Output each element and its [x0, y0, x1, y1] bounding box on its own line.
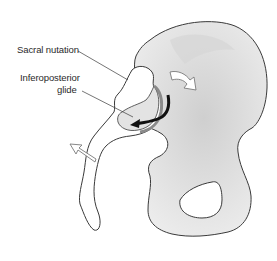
- pelvis-illustration: [0, 0, 277, 261]
- label-sacral-nutation: Sacral nutation: [17, 44, 79, 56]
- diagram-canvas: Sacral nutation Inferoposterior glide: [0, 0, 277, 261]
- leader-line-sacral-nutation: [78, 51, 128, 80]
- label-inferoposterior-glide-line2: glide: [57, 84, 77, 96]
- label-inferoposterior-glide-line1: Inferoposterior: [20, 72, 80, 84]
